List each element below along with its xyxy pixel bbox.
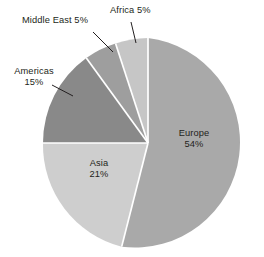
pie-label-asia-value: 21% bbox=[73, 169, 125, 180]
pie-label-europe-name: Europe bbox=[168, 128, 220, 139]
pie-label-middle-east: Middle East 5% bbox=[22, 15, 88, 26]
pie-label-americas-name: Americas bbox=[3, 66, 65, 77]
pie-label-asia: Asia 21% bbox=[73, 158, 125, 181]
pie-label-americas-value: 15% bbox=[3, 77, 65, 88]
pie-label-asia-name: Asia bbox=[73, 158, 125, 169]
pie-chart: Europe 54% Asia 21% Americas 15% Middle … bbox=[0, 0, 264, 257]
pie-label-americas: Americas 15% bbox=[3, 66, 65, 89]
pie-label-europe-value: 54% bbox=[168, 139, 220, 150]
pie-chart-graphic bbox=[0, 0, 264, 257]
pie-label-africa: Africa 5% bbox=[110, 5, 151, 16]
pie-label-europe: Europe 54% bbox=[168, 128, 220, 151]
